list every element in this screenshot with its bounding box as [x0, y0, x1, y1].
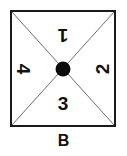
quadrant-label-left: 4	[14, 63, 33, 74]
figure-root: 1 2 3 4 B	[0, 0, 127, 156]
figure-caption: B	[0, 132, 127, 150]
quadrant-label-bottom: 3	[58, 94, 69, 113]
center-dot-marker	[56, 61, 71, 76]
quadrant-square-inner: 1 2 3 4	[12, 12, 114, 125]
quadrant-label-top: 1	[58, 26, 69, 45]
quadrant-square: 1 2 3 4	[10, 10, 116, 127]
quadrant-label-right: 2	[93, 63, 112, 74]
